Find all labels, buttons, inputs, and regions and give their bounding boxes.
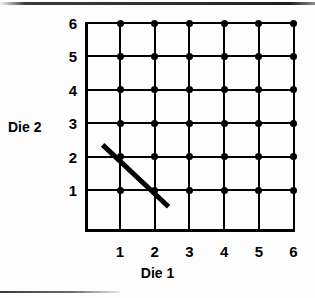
y-tick-label-3: 3 bbox=[57, 116, 77, 131]
x-tick-label-4: 4 bbox=[214, 244, 234, 259]
x-tick-label-3: 3 bbox=[179, 244, 199, 259]
event-line-overlay bbox=[85, 23, 293, 232]
x-tick-label-5: 5 bbox=[249, 244, 269, 259]
y-tick-label-1: 1 bbox=[57, 183, 77, 198]
y-tick-label-4: 4 bbox=[57, 83, 77, 98]
x-tick-label-2: 2 bbox=[145, 244, 165, 259]
x-tick-label-1: 1 bbox=[110, 244, 130, 259]
x-axis-title: Die 1 bbox=[0, 266, 315, 280]
y-tick-label-5: 5 bbox=[57, 49, 77, 64]
scan-rule-bottom bbox=[0, 291, 120, 293]
y-axis-title: Die 2 bbox=[8, 120, 41, 134]
scan-rule-top bbox=[0, 2, 315, 5]
y-tick-label-6: 6 bbox=[57, 16, 77, 31]
plot-area bbox=[85, 23, 293, 232]
dice-lattice-figure: 654321 123456 Die 2 Die 1 bbox=[0, 0, 315, 298]
y-tick-label-2: 2 bbox=[57, 150, 77, 165]
x-tick-label-6: 6 bbox=[284, 244, 304, 259]
event-line bbox=[103, 145, 169, 207]
